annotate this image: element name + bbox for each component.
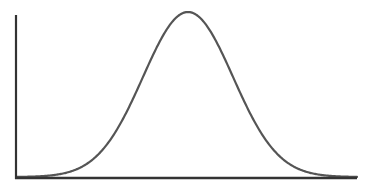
bell-curve-chart	[0, 0, 370, 190]
normal-distribution-curve	[16, 12, 357, 177]
